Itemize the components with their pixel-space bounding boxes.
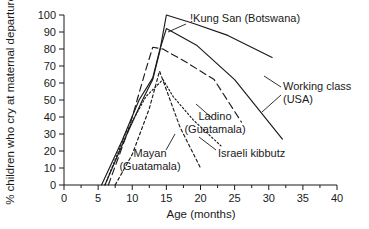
y-tick-label: 90 [44, 26, 56, 38]
annotation-label-kung-san: !Kung San (Botswana) [190, 12, 300, 24]
chart-figure: 01020304050607080901000510152025303540 !… [0, 0, 369, 229]
y-tick-label: 0 [50, 179, 56, 191]
y-tick-label: 100 [38, 9, 56, 21]
y-tick-label: 80 [44, 43, 56, 55]
annotation-label-working-class: Working class [283, 80, 352, 92]
x-tick-label: 20 [194, 192, 206, 204]
y-axis-title: % children who cry at maternal departure [4, 0, 16, 205]
annotation-label-ladino: Ladino [198, 110, 231, 122]
annotation-label-ladino-line2: (Guatamala) [184, 123, 245, 135]
x-axis-title: Age (months) [166, 208, 235, 220]
x-tick-label: 30 [263, 192, 275, 204]
x-tick-label: 10 [126, 192, 138, 204]
annotation-label-mayan: Mayan [133, 147, 166, 159]
line-chart: 01020304050607080901000510152025303540 !… [0, 0, 369, 229]
x-tick-label: 0 [61, 192, 67, 204]
leader-line-israeli-kibbutz [199, 137, 216, 150]
leader-line-kung-san [168, 24, 186, 32]
y-tick-label: 50 [44, 94, 56, 106]
y-tick-label: 60 [44, 77, 56, 89]
x-tick-label: 40 [331, 192, 343, 204]
y-tick-label: 70 [44, 60, 56, 72]
x-tick-label: 5 [95, 192, 101, 204]
y-tick-label: 30 [44, 128, 56, 140]
leader-line-mayan [166, 134, 175, 150]
x-tick-label: 35 [297, 192, 309, 204]
annotation-label-israeli-kibbutz: Israeli kibbutz [218, 147, 285, 159]
axes: 01020304050607080901000510152025303540 [38, 9, 343, 204]
x-tick-label: 25 [229, 192, 241, 204]
y-tick-label: 10 [44, 162, 56, 174]
leader-line-working-class2 [262, 95, 281, 112]
x-tick-label: 15 [160, 192, 172, 204]
leader-line-working-class [264, 76, 281, 87]
annotation-label-working-class-line2: (USA) [283, 93, 313, 105]
y-tick-label: 40 [44, 111, 56, 123]
y-tick-label: 20 [44, 145, 56, 157]
annotation-label-mayan-line2: (Guatamala) [119, 160, 180, 172]
